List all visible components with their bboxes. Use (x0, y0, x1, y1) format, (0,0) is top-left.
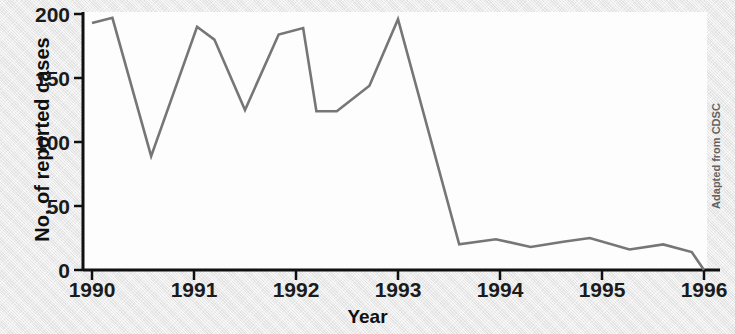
x-axis (83, 270, 720, 280)
y-axis-label: No. of reported cases (31, 10, 54, 270)
y-axis (74, 12, 83, 271)
figure-container: 200 150 100 50 0 1990 1991 1992 1993 199… (0, 0, 735, 334)
source-credit-label: Adapted from CDSC (710, 91, 722, 221)
data-series-line (92, 18, 704, 270)
x-axis-label: Year (0, 306, 735, 328)
chart-svg (0, 0, 735, 334)
